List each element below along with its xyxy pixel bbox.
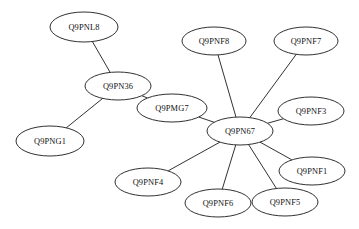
graph-edge — [218, 55, 236, 117]
graph-edge — [66, 98, 102, 127]
graph-node[interactable]: Q9PMG7 — [137, 94, 207, 122]
graph-node[interactable]: Q9PNF5 — [252, 188, 318, 216]
node-label: Q9PN36 — [103, 82, 133, 91]
graph-node[interactable]: Q9PNL8 — [50, 12, 118, 42]
node-layer: Q9PNL8Q9PN36Q9PNG1Q9PMG7Q9PNF8Q9PNF7Q9PN… — [16, 12, 345, 217]
graph-edge — [92, 42, 110, 73]
graph-diagram: Q9PNL8Q9PN36Q9PNG1Q9PMG7Q9PNF8Q9PNF7Q9PN… — [0, 0, 359, 229]
node-label: Q9PNG1 — [34, 137, 66, 146]
node-label: Q9PN67 — [225, 127, 255, 136]
node-label: Q9PNL8 — [68, 23, 99, 32]
graph-edge — [142, 96, 148, 98]
graph-node[interactable]: Q9PNG1 — [16, 126, 84, 156]
graph-edge — [249, 145, 277, 189]
graph-edge — [267, 119, 283, 124]
node-label: Q9PNF4 — [133, 178, 164, 187]
graph-node[interactable]: Q9PNF3 — [278, 97, 344, 125]
node-label: Q9PNF5 — [270, 198, 301, 207]
graph-node[interactable]: Q9PNF6 — [185, 189, 251, 217]
graph-node[interactable]: Q9PNF1 — [279, 157, 345, 185]
graph-node[interactable]: Q9PNF4 — [115, 168, 181, 196]
graph-svg-surface: Q9PNL8Q9PN36Q9PNG1Q9PMG7Q9PNF8Q9PNF7Q9PN… — [0, 0, 359, 229]
graph-node[interactable]: Q9PNF7 — [274, 27, 338, 55]
node-label: Q9PMG7 — [155, 104, 188, 113]
graph-node[interactable]: Q9PN67 — [207, 117, 273, 145]
node-label: Q9PNF7 — [291, 37, 322, 46]
node-label: Q9PNF3 — [296, 107, 327, 116]
graph-edge — [168, 142, 220, 171]
graph-edge — [222, 145, 236, 189]
graph-edge — [260, 142, 292, 160]
graph-edge — [199, 117, 214, 122]
graph-node[interactable]: Q9PNF8 — [182, 27, 246, 55]
graph-node[interactable]: Q9PN36 — [85, 72, 151, 100]
node-label: Q9PNF1 — [297, 167, 328, 176]
node-label: Q9PNF6 — [203, 199, 234, 208]
node-label: Q9PNF8 — [199, 37, 230, 46]
